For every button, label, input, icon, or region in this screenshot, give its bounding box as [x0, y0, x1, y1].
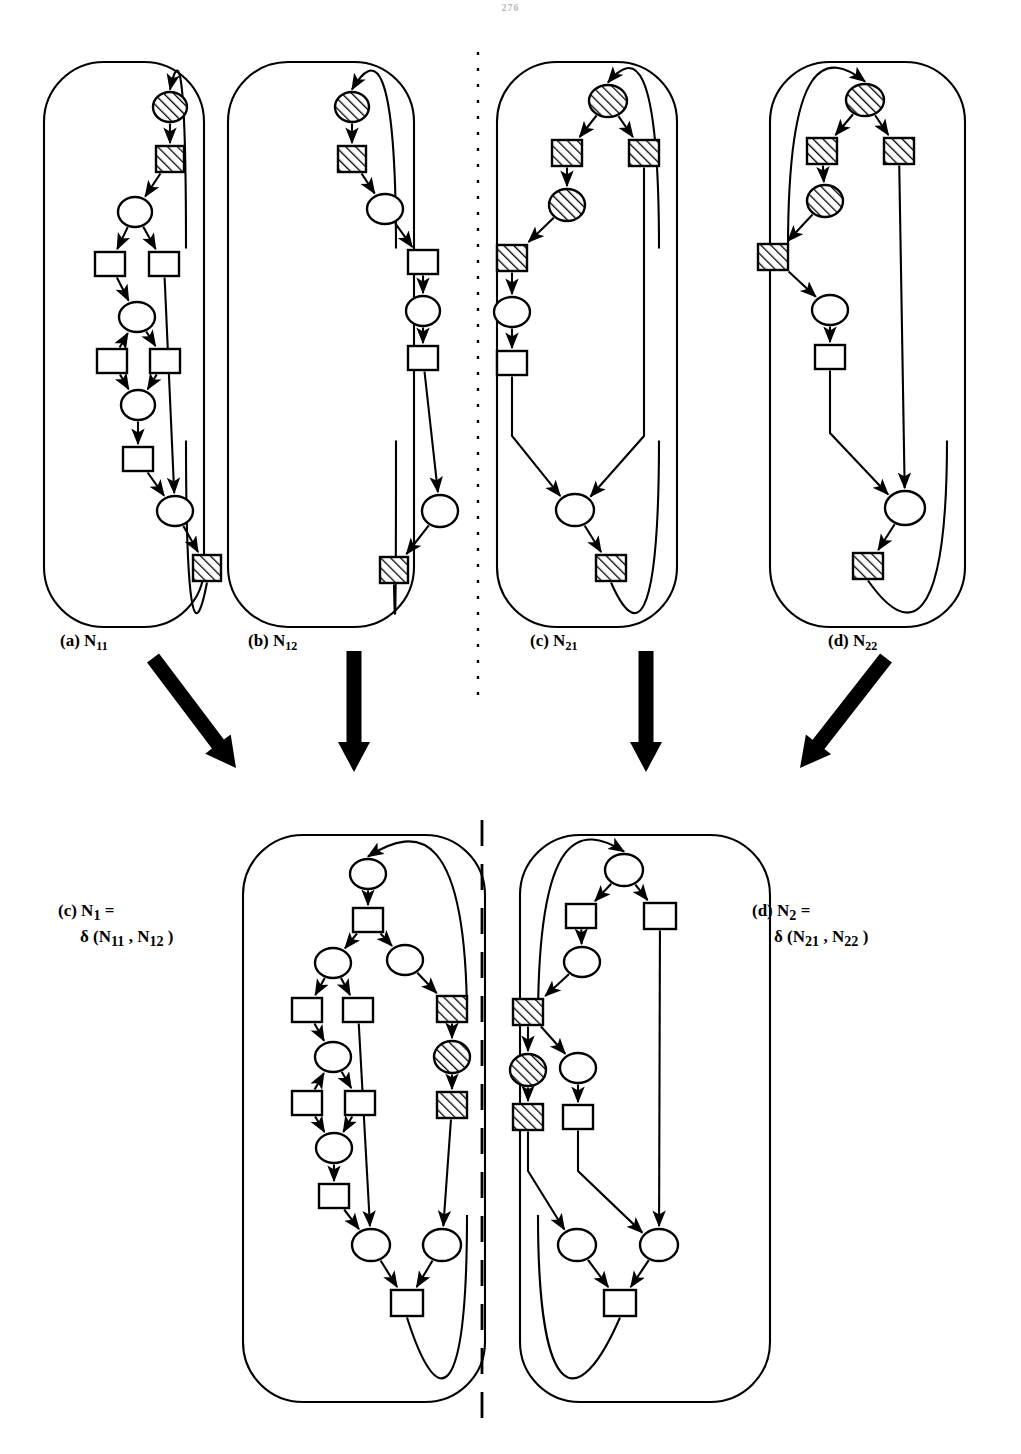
net-edge [425, 372, 438, 493]
net-edge [343, 1117, 352, 1132]
net-edge [148, 375, 157, 390]
transition-node [644, 903, 676, 929]
net-edge [618, 116, 632, 137]
place-node [885, 491, 925, 525]
net-edge [830, 371, 888, 495]
net-edge [183, 526, 198, 552]
place-node [316, 1133, 352, 1163]
net-edge [580, 116, 597, 137]
net-edge [345, 934, 357, 949]
net-edge [878, 524, 894, 550]
transform-arrow-d [800, 653, 892, 768]
net-frame-n22 [770, 62, 965, 627]
net-edge [146, 332, 155, 346]
transform-arrow-a [147, 654, 236, 769]
delta-symbol: δ [80, 927, 89, 946]
net-edge [443, 1120, 451, 1227]
transition-node [95, 252, 125, 276]
net-edge [117, 278, 129, 301]
transition-node-marked [758, 244, 788, 270]
transition-node [353, 908, 383, 932]
net-edge [659, 931, 660, 1227]
place-node-marked [846, 84, 884, 116]
net-edge [578, 1131, 642, 1233]
transition-node-marked [497, 245, 527, 271]
net-edge [899, 166, 904, 489]
place-node [121, 390, 155, 420]
net-edge [362, 174, 375, 194]
place-node-marked [589, 85, 627, 117]
transition-node-marked [437, 996, 467, 1022]
place-node-marked [335, 92, 369, 122]
transition-node-marked [513, 1104, 543, 1130]
place-node [119, 302, 155, 332]
petri-net-figure [0, 0, 1021, 1454]
transition-node-marked [513, 999, 543, 1025]
place-node [157, 496, 193, 526]
place-node [423, 1229, 461, 1261]
caption-line-1: (c) N1 = [58, 900, 174, 926]
net-edge [512, 377, 560, 496]
transition-node [604, 1290, 636, 1316]
transition-node-marked [853, 553, 883, 579]
place-node [352, 1229, 390, 1261]
net-edge [631, 1260, 649, 1287]
net-edge [344, 1210, 359, 1230]
transition-node-marked [156, 146, 184, 172]
net-edge [145, 174, 160, 197]
place-node-marked [510, 1054, 546, 1086]
transition-node [292, 998, 322, 1022]
place-node-marked [434, 1041, 470, 1073]
transform-arrows-layer [147, 651, 892, 772]
caption-net-n11: (a) N11 [60, 631, 108, 654]
net-edge [595, 884, 611, 901]
transition-node-marked [884, 138, 914, 164]
transition-node-marked [596, 555, 626, 581]
place-node [315, 1042, 351, 1072]
transition-node-marked [552, 140, 582, 166]
net-edge [315, 1117, 324, 1132]
place-node [315, 948, 351, 978]
delta-symbol: δ [774, 927, 783, 946]
net-edge [529, 218, 554, 242]
net-edge [789, 272, 816, 297]
place-node-marked [807, 185, 843, 217]
place-node-marked [549, 189, 585, 221]
place-node [556, 494, 594, 526]
caption-net-n12: (b) N12 [248, 631, 297, 654]
transition-node [292, 1091, 322, 1115]
transition-node [815, 345, 845, 369]
transition-node [319, 1184, 349, 1208]
transition-node-marked [437, 1092, 467, 1118]
net-edge [588, 1260, 608, 1287]
net-edge [585, 525, 601, 552]
net-edge [315, 978, 324, 995]
net-edge [120, 375, 129, 390]
caption-line-2: δ (N21 , N22 ) [752, 926, 868, 952]
net-edge [835, 114, 853, 135]
place-node [422, 495, 458, 527]
figure-canvas: 276 (a) N11 (b) N12 (c) N21 (d) N22 (c) … [0, 0, 1021, 1454]
net-edge [417, 1261, 433, 1287]
transition-node-marked [380, 557, 408, 583]
transition-node [345, 1091, 375, 1115]
place-node [812, 295, 848, 325]
place-node [406, 296, 440, 326]
net-nodes-layer [95, 84, 925, 1316]
transition-node [149, 252, 179, 276]
net-edge [545, 974, 569, 996]
transition-node [97, 349, 127, 373]
net-edge [380, 934, 391, 946]
place-node [118, 197, 152, 227]
transition-node [408, 346, 438, 370]
transition-node [497, 351, 527, 375]
transform-arrow-b [338, 651, 370, 772]
caption-net-n2-composed: (d) N2 =δ (N21 , N22 ) [752, 900, 868, 951]
transition-node-marked [807, 138, 837, 164]
net-edge [591, 168, 644, 497]
net-edge [342, 1072, 352, 1088]
place-node [605, 854, 643, 886]
place-node [558, 1229, 596, 1261]
net-edges-layer [117, 68, 947, 1379]
net-edge [417, 973, 436, 993]
